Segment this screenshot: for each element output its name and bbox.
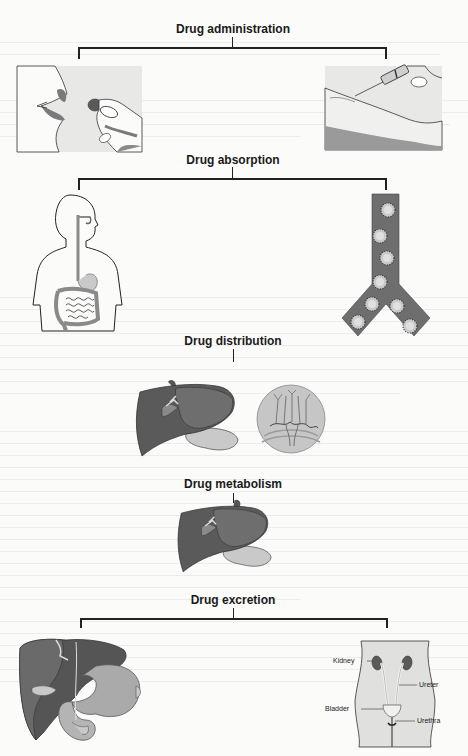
bracket-left-leg [80,618,82,628]
label-urethra: Urethra [417,717,440,724]
bracket-left-leg [78,178,80,190]
urinary-system-illustration [355,641,435,747]
injection-administration-illustration [325,66,442,150]
tissue-capillary-circle-illustration [256,384,326,454]
bracket-right-leg [385,178,387,190]
liver-illustration [174,500,284,574]
bracket-stem [232,167,233,178]
oral-administration-illustration [17,66,142,152]
stage-title-distribution: Drug distribution [184,334,281,348]
bracket-stem [232,37,233,47]
stage-title-absorption: Drug absorption [186,153,279,167]
connector-stem [233,349,234,362]
liver-illustration [132,378,252,458]
bracket-bar [78,178,386,180]
label-kidney: Kidney [333,657,354,664]
bracket-right-leg [386,618,388,628]
digestive-system-illustration [30,195,126,331]
stage-title-metabolism: Drug metabolism [184,477,282,491]
bracket-bar [80,618,387,620]
bracket-left-leg [78,47,80,59]
label-ureter: Ureter [419,681,438,688]
stage-title-excretion: Drug excretion [191,593,276,607]
bracket-bar [78,47,386,49]
bracket-stem [233,608,234,618]
stage-title-administration: Drug administration [176,22,290,36]
bracket-right-leg [385,47,387,59]
liver-gallbladder-intestine-illustration [16,636,144,748]
label-bladder: Bladder [325,705,349,712]
blood-vessel-with-drug-particles-illustration [342,194,432,336]
